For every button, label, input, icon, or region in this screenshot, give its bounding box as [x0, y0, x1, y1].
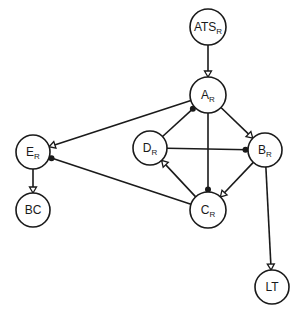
edge-line: [163, 107, 195, 136]
edge-ats-a: [205, 45, 212, 77]
node-label: LT: [265, 280, 279, 294]
edge-line: [49, 101, 191, 147]
edge-line: [162, 160, 196, 196]
node-bc: BC: [16, 193, 50, 227]
edge-line: [167, 148, 248, 149]
node-b: BR: [248, 133, 282, 167]
triangle-marker-icon: [30, 187, 37, 193]
edge-line: [220, 162, 253, 197]
edge-line: [266, 167, 271, 270]
edge-b-c: [220, 162, 253, 197]
edge-d-a: [163, 106, 196, 137]
edge-e-bc: [30, 169, 37, 193]
dependency-diagram: ATSRARDRBRERCRBCLT: [0, 0, 301, 313]
node-d: DR: [133, 131, 167, 165]
edge-c-d: [162, 160, 196, 196]
nodes-layer: ATSRARDRBRERCRBCLT: [16, 9, 289, 304]
triangle-marker-icon: [205, 71, 212, 77]
triangle-marker-icon: [49, 142, 56, 149]
node-e: ER: [16, 135, 50, 169]
edge-b-lt: [266, 167, 274, 270]
node-label: BC: [25, 203, 42, 217]
node-a: AR: [190, 77, 226, 113]
node-lt: LT: [255, 270, 289, 304]
triangle-marker-icon: [267, 264, 274, 270]
node-ats: ATSR: [190, 9, 226, 45]
edge-a-e: [49, 101, 191, 149]
node-c: CR: [190, 192, 226, 228]
edge-a-b: [221, 107, 253, 138]
edge-line: [49, 157, 191, 204]
edge-a-c: [205, 113, 211, 193]
edge-c-e: [49, 155, 191, 204]
